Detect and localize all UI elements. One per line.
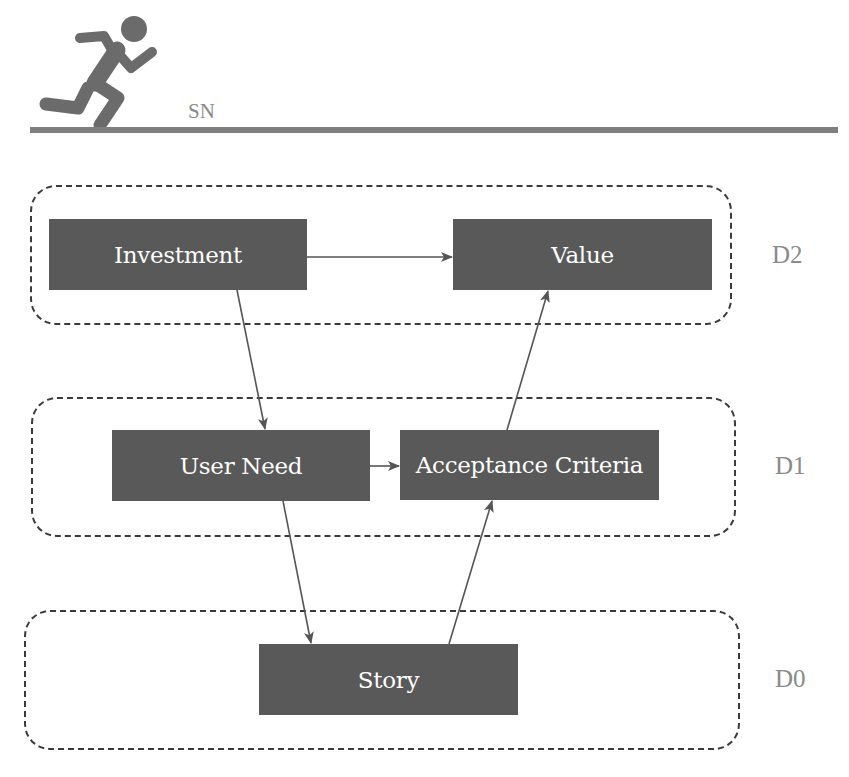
runner-icon: [0, 0, 200, 135]
ground-line: [30, 127, 838, 133]
level-label-d0: D0: [775, 665, 806, 693]
diagram-canvas: SN D2 D1 D0 Investment Value User Need A…: [0, 0, 849, 777]
level-label-d1: D1: [775, 452, 806, 480]
node-user-need: User Need: [112, 430, 370, 501]
node-story: Story: [259, 644, 518, 715]
node-acceptance-criteria: Acceptance Criteria: [400, 430, 659, 500]
node-value: Value: [453, 219, 712, 290]
level-label-d2: D2: [772, 241, 803, 269]
node-investment: Investment: [49, 219, 307, 290]
sn-label: SN: [188, 99, 215, 124]
